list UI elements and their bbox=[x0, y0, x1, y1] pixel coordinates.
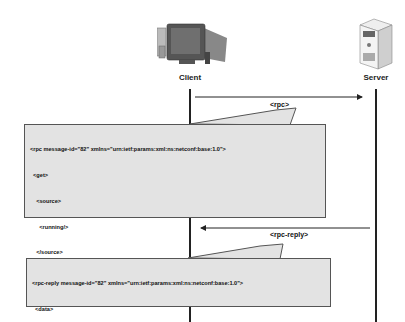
xml-line: <rpc-reply message-id="82" xmlns="urn:ie… bbox=[32, 279, 325, 288]
rpc-request-xml-box: <rpc message-id="82" xmlns="urn:ietf:par… bbox=[24, 124, 326, 218]
xml-line: <data> bbox=[32, 305, 325, 314]
rpc-reply-xml-box: <rpc-reply message-id="82" xmlns="urn:ie… bbox=[26, 258, 331, 307]
xml-line: <rpc message-id="82" xmlns="urn:ietf:par… bbox=[30, 145, 320, 154]
xml-line: <running/> bbox=[30, 223, 320, 232]
rpc-message-label: <rpc> bbox=[270, 101, 289, 108]
xml-line: <get> bbox=[30, 171, 320, 180]
xml-line: </source> bbox=[30, 248, 320, 257]
xml-line: <source> bbox=[30, 197, 320, 206]
